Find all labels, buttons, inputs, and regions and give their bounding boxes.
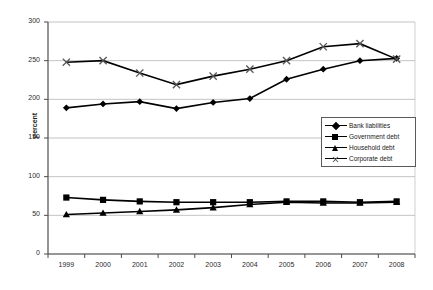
data-series — [63, 40, 401, 88]
x-tick-label: 2002 — [156, 261, 196, 268]
x-tick-label: 2008 — [377, 261, 417, 268]
legend-item: Household debt — [324, 142, 413, 153]
x-tick-label: 2006 — [303, 261, 343, 268]
square-marker — [325, 131, 347, 142]
legend-item-label: Bank liabilities — [347, 120, 390, 131]
chart-container: percent 300250200150100500 1999200020012… — [0, 0, 433, 290]
y-tick-label: 300 — [14, 17, 40, 24]
legend-item: Corporate debt — [324, 153, 413, 164]
y-tick-label: 50 — [14, 210, 40, 217]
y-tick-label: 0 — [14, 249, 40, 256]
y-tick-label: 200 — [14, 94, 40, 101]
diamond-marker — [325, 120, 347, 131]
x-tick-label: 2003 — [193, 261, 233, 268]
x-tick-label: 2000 — [83, 261, 123, 268]
x-tick-label: 1999 — [46, 261, 86, 268]
y-tick-label: 150 — [14, 133, 40, 140]
triangle-marker — [325, 142, 347, 153]
y-tick-label: 250 — [14, 56, 40, 63]
legend-item-label: Government debt — [347, 131, 399, 142]
y-tick-label: 100 — [14, 172, 40, 179]
legend-item: Bank liabilities — [324, 120, 413, 131]
x-axis-ticks — [48, 254, 415, 258]
legend-item-label: Corporate debt — [347, 153, 392, 164]
x-tick-label: 2007 — [340, 261, 380, 268]
legend-item: Government debt — [324, 131, 413, 142]
chart-legend: Bank liabilitiesGovernment debtHousehold… — [321, 117, 416, 167]
cross-marker — [325, 153, 347, 164]
x-tick-label: 2001 — [120, 261, 160, 268]
x-tick-label: 2005 — [267, 261, 307, 268]
x-tick-label: 2004 — [230, 261, 270, 268]
legend-item-label: Household debt — [347, 142, 395, 153]
